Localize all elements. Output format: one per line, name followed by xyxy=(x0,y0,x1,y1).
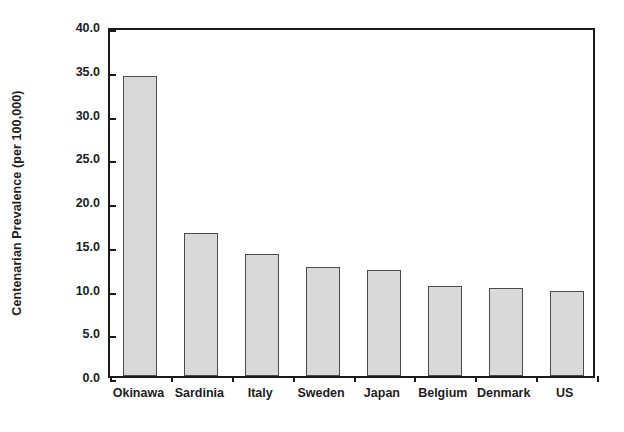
bar-chart-figure: Centenarian Prevalence (per 100,000) 0.0… xyxy=(0,0,624,432)
x-axis-tick-label: US xyxy=(556,386,573,400)
y-axis-tick-mark xyxy=(110,293,116,295)
x-axis-tick-label: Belgium xyxy=(418,386,467,400)
y-axis-tick-mark xyxy=(110,205,116,207)
x-axis-tick-label: Italy xyxy=(248,386,273,400)
bar-okinawa xyxy=(123,76,157,376)
y-axis-tick-mark xyxy=(110,336,116,338)
x-axis-tick-label: Denmark xyxy=(477,386,531,400)
x-axis-tick-label: Sweden xyxy=(297,386,344,400)
bar-us xyxy=(550,291,584,376)
y-axis-title: Centenarian Prevalence (per 100,000) xyxy=(10,90,24,315)
y-axis-title-container: Centenarian Prevalence (per 100,000) xyxy=(0,28,34,378)
y-axis-tick-label: 40.0 xyxy=(76,21,100,35)
x-axis-tick-label: Japan xyxy=(364,386,400,400)
bar-denmark xyxy=(489,288,523,376)
bar-sweden xyxy=(306,267,340,376)
y-axis-tick-label: 15.0 xyxy=(76,240,100,254)
x-axis-tick-mark xyxy=(232,376,234,382)
y-axis-tick-label: 20.0 xyxy=(76,196,100,210)
bar-belgium xyxy=(428,286,462,376)
y-axis-tick-labels: 0.05.010.015.020.025.030.035.040.0 xyxy=(38,0,100,432)
x-axis-tick-mark xyxy=(475,376,477,382)
y-axis-tick-label: 10.0 xyxy=(76,284,100,298)
x-axis-tick-mark xyxy=(414,376,416,382)
x-axis-tick-mark xyxy=(354,376,356,382)
bar-sardinia xyxy=(184,233,218,377)
x-axis-tick-mark xyxy=(536,376,538,382)
y-axis-tick-mark xyxy=(110,74,116,76)
y-axis-tick-label: 35.0 xyxy=(76,65,100,79)
y-axis-tick-mark xyxy=(110,30,116,32)
x-axis-tick-label: Sardinia xyxy=(175,386,224,400)
x-axis-tick-label: Okinawa xyxy=(113,386,164,400)
y-axis-tick-label: 30.0 xyxy=(76,109,100,123)
y-axis-tick-label: 5.0 xyxy=(83,327,100,341)
bar-italy xyxy=(245,254,279,376)
y-axis-tick-label: 25.0 xyxy=(76,152,100,166)
y-axis-tick-mark xyxy=(110,161,116,163)
plot-area xyxy=(108,28,595,378)
x-axis-tick-labels: OkinawaSardiniaItalySwedenJapanBelgiumDe… xyxy=(108,386,595,410)
y-axis-tick-label: 0.0 xyxy=(83,371,100,385)
y-axis-tick-mark xyxy=(110,118,116,120)
x-axis-tick-mark xyxy=(293,376,295,382)
y-axis-tick-mark xyxy=(110,249,116,251)
bar-japan xyxy=(367,270,401,376)
x-axis-origin-tick-mark xyxy=(110,376,112,382)
x-axis-tick-mark xyxy=(171,376,173,382)
x-axis-tick-mark xyxy=(597,376,599,382)
